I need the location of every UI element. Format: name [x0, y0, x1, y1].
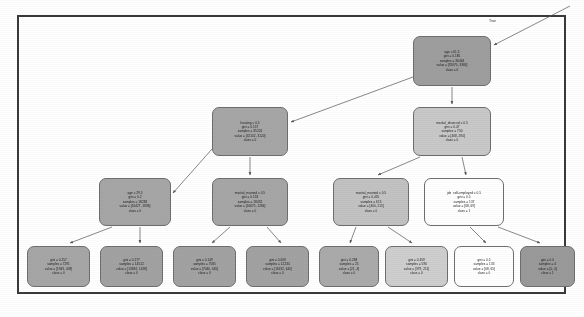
node-age-29-line-5: class = 0 — [129, 209, 142, 213]
leaf-node-2[interactable]: gini = 0.177samples = 14512value = [1369… — [100, 246, 163, 287]
node-marital-married-right-line-5: class = 0 — [365, 209, 378, 213]
node-job-self-employed-line-5: class = 1 — [458, 209, 471, 213]
leaf-node-6[interactable]: gini = 0.459samples = 590value = [379, 2… — [385, 246, 448, 287]
node-marital-divorced[interactable]: marital_divorced ≤ 0.5gini = 0.47samples… — [413, 107, 491, 156]
node-marital-married-left-line-5: class = 0 — [244, 209, 257, 213]
leaf-node-1[interactable]: gini = 0.257samples = 7291value = [1943,… — [27, 246, 90, 287]
leaf-node-1-line-4: class = 0 — [52, 271, 65, 275]
leaf-node-3[interactable]: gini = 0.149samples = 7585value = [7040,… — [173, 246, 236, 287]
node-marital-married-left[interactable]: marital_married ≤ 0.5gini = 0.153samples… — [212, 178, 288, 226]
leaf-node-7-line-4: class = 0 — [478, 271, 491, 275]
leaf-node-3-line-4: class = 0 — [198, 271, 211, 275]
leaf-node-8[interactable]: gini = 0.0samples = 4value = [0, 4]class… — [520, 246, 575, 287]
leaf-node-5-line-4: class = 0 — [343, 271, 356, 275]
leaf-node-6-line-4: class = 0 — [410, 271, 423, 275]
edge-label-true: True — [489, 19, 496, 23]
leaf-node-5[interactable]: gini = 0.268samples = 25value = [21, 4]c… — [319, 246, 379, 287]
leaf-node-4[interactable]: gini = 0.009samples = 12234value = [1163… — [246, 246, 309, 287]
leaf-node-2-line-4: class = 0 — [125, 271, 138, 275]
node-age-29[interactable]: age ≤ 29.5gini = 0.2samples = 18283value… — [99, 178, 171, 226]
node-job-self-employed[interactable]: job_self-employed ≤ 0.5gini = 0.5samples… — [424, 178, 504, 226]
node-marital-divorced-line-5: class = 0 — [446, 138, 459, 142]
leaf-node-4-line-4: class = 0 — [271, 271, 284, 275]
leaf-node-8-line-4: class = 1 — [541, 271, 554, 275]
node-root-age[interactable]: age ≤ 61.5gini = 0.185samples = 36464val… — [413, 36, 491, 86]
node-marital-married-right[interactable]: marital_married ≤ 0.5gini = 0.455samples… — [333, 178, 409, 226]
node-housing-line-5: class = 0 — [244, 138, 257, 142]
leaf-node-7[interactable]: gini = 0.5samples = 133value = [68, 65]c… — [454, 246, 514, 287]
node-root-age-line-5: class = 0 — [446, 68, 459, 72]
node-housing[interactable]: housing ≤ 0.5gini = 0.157samples = 35202… — [212, 107, 288, 156]
